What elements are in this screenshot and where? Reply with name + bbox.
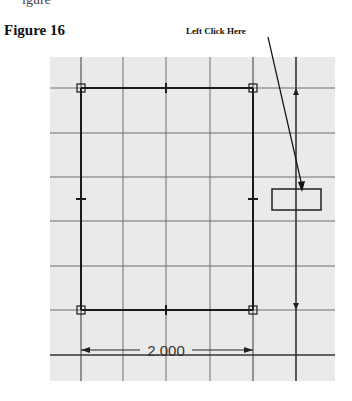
grid-background (50, 57, 335, 381)
sketch-canvas: 2.000 (0, 0, 352, 401)
dimension-value: 2.000 (147, 342, 185, 359)
